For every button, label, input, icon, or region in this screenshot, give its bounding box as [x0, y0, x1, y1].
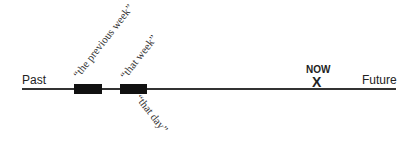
- previous-week-block: [74, 84, 102, 94]
- that-day-label: “that day”: [134, 92, 171, 135]
- future-label: Future: [362, 73, 397, 87]
- now-x-mark: X: [312, 74, 321, 90]
- past-label: Past: [22, 73, 46, 87]
- timeline-diagram: Past “the previous week” “that week” “th…: [0, 0, 415, 144]
- that-week-label: “that week”: [118, 32, 160, 81]
